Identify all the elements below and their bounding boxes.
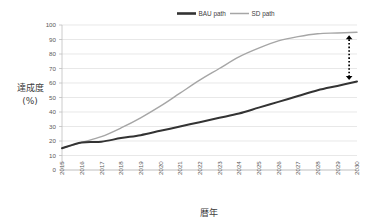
legend-label-bau: BAU path — [199, 10, 227, 18]
x-tick-label: 2015 — [58, 161, 65, 175]
y-tick-label: 30 — [49, 123, 56, 130]
x-tick-label: 2019 — [137, 161, 144, 175]
x-tick-label-group: 2019 — [137, 161, 144, 175]
x-tick-label: 2027 — [294, 161, 301, 175]
x-tick-label: 2020 — [157, 161, 164, 175]
x-tick-label: 2018 — [117, 161, 124, 175]
x-tick-label-group: 2018 — [117, 161, 124, 175]
y-tick-label: 10 — [49, 152, 56, 159]
x-tick-label-group: 2020 — [157, 161, 164, 175]
x-axis-title: 暦年 — [200, 207, 218, 218]
y-tick-label: 80 — [49, 50, 56, 57]
y-tick-label: 40 — [49, 108, 56, 115]
y-tick-label: 60 — [49, 79, 56, 86]
x-tick-label-group: 2025 — [255, 161, 262, 175]
x-tick-label-group: 2026 — [275, 161, 282, 175]
x-tick-label-group: 2022 — [196, 161, 203, 175]
x-tick-label-group: 2021 — [176, 161, 183, 175]
x-tick-label-group: 2023 — [216, 161, 223, 175]
legend-label-sd: SD path — [252, 10, 276, 18]
x-tick-label: 2026 — [275, 161, 282, 175]
x-tick-label: 2025 — [255, 161, 262, 175]
x-tick-label: 2016 — [78, 161, 85, 175]
y-axis-title-line2: (%) — [22, 96, 38, 106]
x-tick-label-group: 2027 — [294, 161, 301, 175]
x-tick-label: 2024 — [235, 161, 242, 175]
x-tick-label: 2030 — [353, 161, 360, 175]
x-tick-label: 2029 — [334, 161, 341, 175]
y-tick-label: 20 — [49, 137, 56, 144]
y-tick-label: 100 — [46, 21, 57, 28]
x-tick-label-group: 2029 — [334, 161, 341, 175]
x-tick-label-group: 2015 — [58, 161, 65, 175]
x-tick-label: 2017 — [98, 161, 105, 175]
x-tick-label: 2023 — [216, 161, 223, 175]
y-tick-label: 0 — [53, 166, 57, 173]
y-tick-label: 90 — [49, 36, 56, 43]
x-tick-label-group: 2030 — [353, 161, 360, 175]
y-tick-label: 50 — [49, 94, 56, 101]
x-tick-label-group: 2016 — [78, 161, 85, 175]
x-tick-label: 2028 — [314, 161, 321, 175]
x-tick-label: 2022 — [196, 161, 203, 175]
y-tick-label: 70 — [49, 65, 56, 72]
chart-container: 1009080706050403020100 20152016201720182… — [0, 0, 370, 223]
x-tick-label: 2021 — [176, 161, 183, 175]
x-tick-label-group: 2017 — [98, 161, 105, 175]
x-tick-label-group: 2028 — [314, 161, 321, 175]
y-axis-title-line1: 達成度 — [17, 82, 44, 93]
x-tick-label-group: 2024 — [235, 161, 242, 175]
line-chart: 1009080706050403020100 20152016201720182… — [0, 0, 370, 223]
